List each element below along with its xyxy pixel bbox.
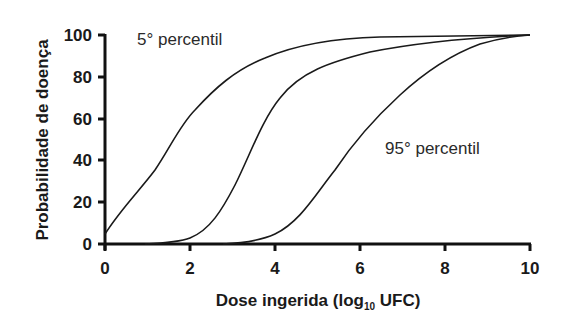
x-axis-title-subscript: 10 xyxy=(364,301,376,312)
x-tick-label: 0 xyxy=(100,259,109,278)
x-tick-label: 10 xyxy=(521,259,540,278)
x-tick-label: 2 xyxy=(185,259,194,278)
x-axis-title-tail: UFC) xyxy=(375,291,420,310)
x-tick-label: 6 xyxy=(355,259,364,278)
y-tick-label: 60 xyxy=(73,110,92,129)
y-axis xyxy=(98,34,105,250)
x-tick-label: 4 xyxy=(270,259,280,278)
chart: 100 80 60 40 20 0 0 2 4 6 8 10 Probabili… xyxy=(0,0,566,328)
y-tick-label: 100 xyxy=(64,26,92,45)
x-tick-label: 8 xyxy=(440,259,449,278)
y-tick-label: 20 xyxy=(73,193,92,212)
y-tick-label: 0 xyxy=(83,235,92,254)
x-axis-title: Dose ingerida (log10 UFC) xyxy=(216,291,421,312)
annotation-5th-percentile: 5° percentil xyxy=(137,30,222,49)
curve-95th-percentile xyxy=(223,35,530,244)
y-tick-label: 40 xyxy=(73,151,92,170)
annotation-95th-percentile: 95° percentil xyxy=(385,139,480,158)
y-axis-title: Probabilidade de doença xyxy=(33,39,52,241)
x-axis-title-main: Dose ingerida (log xyxy=(216,291,364,310)
curve-5th-percentile xyxy=(105,35,530,234)
y-tick-label: 80 xyxy=(73,68,92,87)
x-axis xyxy=(104,244,531,251)
